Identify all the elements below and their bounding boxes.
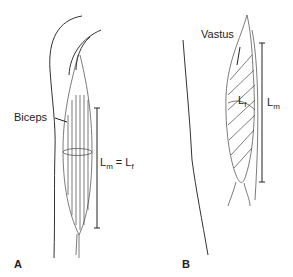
leg-outline-b bbox=[183, 40, 208, 255]
vastus-muscle bbox=[226, 15, 258, 206]
length-muscle-equals-fiber-label: Lm = Lf bbox=[100, 157, 134, 171]
biceps-muscle bbox=[63, 55, 92, 258]
muscle-length-label: Lm bbox=[267, 97, 280, 111]
fiber-length-label: Lf bbox=[238, 95, 246, 109]
lf-sub-b: f bbox=[244, 100, 246, 109]
lf-sub: f bbox=[131, 162, 133, 171]
diagram-canvas bbox=[0, 0, 293, 277]
biceps-label: Biceps bbox=[14, 112, 47, 123]
lm-sub-b: m bbox=[273, 102, 280, 111]
panel-label-a: A bbox=[14, 258, 22, 270]
vastus-label: Vastus bbox=[201, 29, 234, 40]
panel-label-b: B bbox=[182, 258, 190, 270]
eq-text: = L bbox=[113, 156, 132, 168]
lm-sub: m bbox=[106, 162, 113, 171]
arm-outline-a bbox=[50, 16, 101, 258]
